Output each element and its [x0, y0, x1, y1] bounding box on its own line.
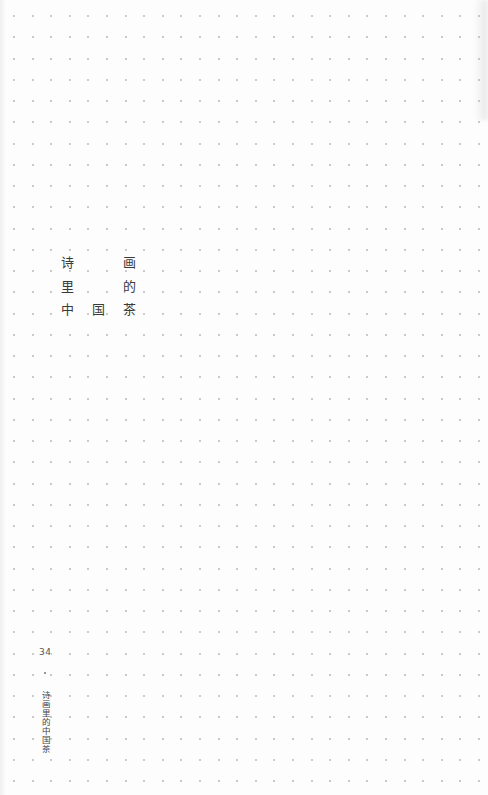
title-char-zhong: 中 — [60, 302, 75, 317]
grid-dot — [422, 674, 424, 676]
grid-dot — [255, 355, 257, 357]
grid-dot — [459, 100, 461, 102]
grid-dot — [162, 313, 164, 315]
grid-dot — [87, 440, 89, 442]
grid-dot — [180, 228, 182, 230]
grid-dot — [87, 376, 89, 378]
grid-dot — [125, 121, 127, 123]
grid-dot — [292, 653, 294, 655]
grid-dot — [199, 589, 201, 591]
grid-dot — [459, 695, 461, 697]
grid-dot — [50, 716, 52, 718]
grid-dot — [422, 483, 424, 485]
grid-dot — [218, 185, 220, 187]
grid-dot — [311, 440, 313, 442]
grid-dot — [125, 355, 127, 357]
grid-dot — [180, 100, 182, 102]
grid-dot — [366, 759, 368, 761]
grid-dot — [348, 653, 350, 655]
grid-dot — [162, 355, 164, 357]
grid-dot — [13, 398, 15, 400]
grid-dot — [162, 653, 164, 655]
grid-dot — [255, 653, 257, 655]
grid-dot — [459, 249, 461, 251]
grid-dot — [478, 143, 480, 145]
grid-dot — [273, 440, 275, 442]
grid-dot — [199, 674, 201, 676]
grid-dot — [180, 143, 182, 145]
grid-dot — [366, 525, 368, 527]
grid-dot — [180, 568, 182, 570]
grid-dot — [32, 79, 34, 81]
grid-dot — [199, 291, 201, 293]
grid-dot — [69, 419, 71, 421]
grid-dot — [13, 716, 15, 718]
grid-dot — [441, 100, 443, 102]
grid-dot — [385, 100, 387, 102]
grid-dot — [311, 525, 313, 527]
grid-dot — [87, 589, 89, 591]
grid-dot — [87, 79, 89, 81]
grid-dot — [404, 398, 406, 400]
grid-dot — [441, 185, 443, 187]
grid-dot — [348, 738, 350, 740]
grid-dot — [106, 546, 108, 548]
grid-dot — [32, 483, 34, 485]
grid-dot — [106, 228, 108, 230]
grid-dot — [218, 419, 220, 421]
grid-dot — [329, 398, 331, 400]
grid-dot — [311, 546, 313, 548]
grid-dot — [50, 58, 52, 60]
grid-dot — [106, 164, 108, 166]
grid-dot — [32, 695, 34, 697]
grid-dot — [273, 674, 275, 676]
grid-dot — [13, 568, 15, 570]
grid-dot — [69, 15, 71, 17]
grid-dot — [143, 738, 145, 740]
grid-dot — [50, 36, 52, 38]
grid-dot — [311, 738, 313, 740]
grid-dot — [329, 185, 331, 187]
grid-dot — [478, 440, 480, 442]
grid-dot — [441, 355, 443, 357]
grid-dot — [180, 334, 182, 336]
grid-dot — [32, 440, 34, 442]
grid-dot — [404, 228, 406, 230]
grid-dot — [69, 100, 71, 102]
grid-dot — [348, 504, 350, 506]
grid-dot — [348, 461, 350, 463]
grid-dot — [162, 610, 164, 612]
grid-dot — [32, 58, 34, 60]
grid-dot — [236, 589, 238, 591]
grid-dot — [218, 631, 220, 633]
grid-dot — [162, 780, 164, 782]
grid-dot — [348, 206, 350, 208]
grid-dot — [459, 121, 461, 123]
grid-dot — [180, 313, 182, 315]
grid-dot — [404, 249, 406, 251]
grid-dot — [87, 355, 89, 357]
grid-dot — [273, 164, 275, 166]
grid-dot — [13, 228, 15, 230]
grid-dot — [348, 419, 350, 421]
grid-dot — [87, 291, 89, 293]
grid-dot — [255, 716, 257, 718]
grid-dot — [366, 185, 368, 187]
grid-dot — [329, 589, 331, 591]
grid-dot — [143, 291, 145, 293]
grid-dot — [311, 398, 313, 400]
grid-dot — [329, 376, 331, 378]
grid-dot — [69, 206, 71, 208]
grid-dot — [218, 440, 220, 442]
grid-dot — [162, 483, 164, 485]
grid-dot — [441, 695, 443, 697]
grid-dot — [366, 610, 368, 612]
grid-dot — [199, 100, 201, 102]
grid-dot — [106, 398, 108, 400]
grid-dot — [311, 58, 313, 60]
grid-dot — [422, 631, 424, 633]
grid-dot — [273, 695, 275, 697]
grid-dot — [255, 546, 257, 548]
grid-dot — [199, 164, 201, 166]
grid-dot — [32, 780, 34, 782]
